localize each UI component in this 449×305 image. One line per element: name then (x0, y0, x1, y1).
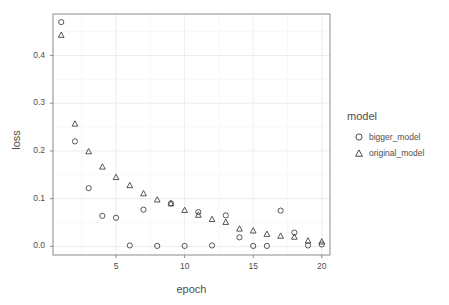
circle-marker-icon (352, 130, 366, 144)
legend-title: model (347, 110, 447, 122)
legend-entry-label: original_model (369, 148, 424, 158)
legend-entry-label: bigger_model (369, 132, 421, 142)
legend-entry-bigger_model[interactable]: bigger_model (352, 129, 447, 145)
x-axis-title: epoch (0, 283, 383, 295)
x-tick-label: 5 (103, 261, 129, 271)
legend-entries: bigger_modeloriginal_model (347, 129, 447, 161)
legend: model bigger_modeloriginal_model (347, 110, 447, 161)
y-tick-label: 0.3 (19, 97, 45, 107)
triangle-marker-icon (352, 146, 366, 160)
x-tick-label: 10 (172, 261, 198, 271)
y-tick-label: 0.1 (19, 193, 45, 203)
panel-background (53, 14, 330, 255)
y-tick-label: 0.4 (19, 50, 45, 60)
y-tick-label: 0.2 (19, 145, 45, 155)
legend-entry-original_model[interactable]: original_model (352, 145, 447, 161)
y-axis-title: loss (10, 110, 22, 170)
scatter-plot-figure: epoch loss 0.00.10.20.30.4 5101520 model… (0, 0, 449, 305)
y-tick-label: 0.0 (19, 240, 45, 250)
x-tick-label: 20 (309, 261, 335, 271)
x-tick-label: 15 (240, 261, 266, 271)
